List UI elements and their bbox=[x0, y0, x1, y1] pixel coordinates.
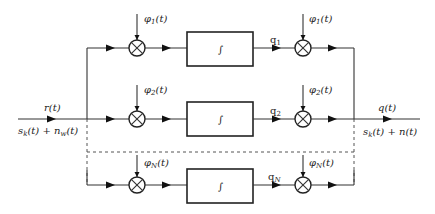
branch-n: φN(t) ∫ qN φN(t) bbox=[87, 155, 354, 203]
arrow-icon bbox=[106, 182, 115, 189]
multiplier-icon bbox=[129, 111, 145, 127]
branch-1: φ1(t) ∫ q1 φ1(t) bbox=[87, 13, 354, 66]
input-basis-label: φ1(t) bbox=[144, 13, 167, 26]
input-arrow-icon bbox=[47, 116, 56, 123]
multiplier-icon bbox=[295, 177, 311, 193]
multiplier-icon bbox=[129, 177, 145, 193]
output-basis-label: φ1(t) bbox=[309, 13, 332, 26]
input-signal: r(t) sk(t) + nw(t) bbox=[18, 102, 87, 138]
arrow-icon bbox=[162, 116, 171, 123]
output-arrow-icon bbox=[383, 116, 392, 123]
arrow-down-icon bbox=[301, 172, 306, 177]
arrow-icon bbox=[106, 45, 115, 52]
input-basis-label: φN(t) bbox=[144, 157, 169, 170]
output-expression: sk(t) + n(t) bbox=[363, 126, 417, 139]
output-basis-label: φ2(t) bbox=[309, 84, 332, 97]
output-signal: q(t) sk(t) + n(t) bbox=[354, 102, 420, 139]
arrow-down-icon bbox=[301, 35, 306, 40]
multiplier-icon bbox=[129, 40, 145, 56]
arrow-icon bbox=[328, 182, 337, 189]
output-basis-label: φN(t) bbox=[309, 157, 334, 170]
arrow-icon bbox=[328, 45, 337, 52]
arrow-down-icon bbox=[301, 106, 306, 111]
coefficient-label: qN bbox=[268, 171, 281, 184]
integral-icon: ∫ bbox=[218, 44, 223, 55]
input-expression: sk(t) + nw(t) bbox=[18, 125, 78, 138]
output-label: q(t) bbox=[378, 102, 396, 113]
integral-icon: ∫ bbox=[218, 114, 223, 125]
correlator-block-diagram: r(t) sk(t) + nw(t) q(t) sk(t) + n(t) bbox=[0, 0, 435, 214]
arrow-icon bbox=[162, 182, 171, 189]
input-basis-label: φ2(t) bbox=[144, 84, 167, 97]
arrow-down-icon bbox=[135, 106, 140, 111]
input-label: r(t) bbox=[44, 102, 61, 113]
arrow-down-icon bbox=[135, 172, 140, 177]
arrow-icon bbox=[106, 116, 115, 123]
coefficient-label: q2 bbox=[270, 105, 281, 118]
arrow-down-icon bbox=[135, 35, 140, 40]
coefficient-label: q1 bbox=[270, 34, 281, 47]
arrow-icon bbox=[162, 45, 171, 52]
multiplier-icon bbox=[295, 40, 311, 56]
branch-2: φ2(t) ∫ q2 φ2(t) bbox=[87, 84, 354, 136]
integral-icon: ∫ bbox=[218, 181, 223, 192]
arrow-icon bbox=[328, 116, 337, 123]
multiplier-icon bbox=[295, 111, 311, 127]
